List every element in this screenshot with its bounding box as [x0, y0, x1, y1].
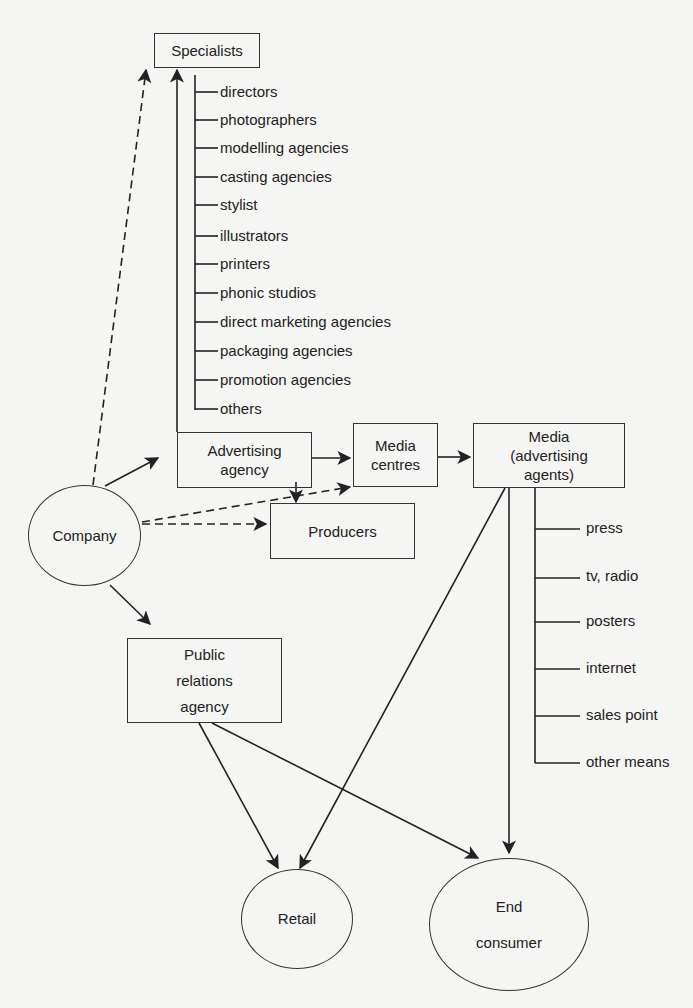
- node-advertising-agency: Advertising agency: [177, 432, 312, 488]
- specialist-item: casting agencies: [220, 168, 332, 186]
- edge-company-pr: [110, 585, 150, 624]
- node-producers: Producers: [270, 503, 415, 559]
- specialist-item: photographers: [220, 111, 317, 129]
- specialist-item: direct marketing agencies: [220, 313, 391, 331]
- specialist-item: illustrators: [220, 227, 288, 245]
- specialist-item: stylist: [220, 196, 258, 214]
- specialist-item: modelling agencies: [220, 139, 348, 157]
- specialist-item: phonic studios: [220, 284, 316, 302]
- specialist-item: printers: [220, 255, 270, 273]
- media-item: press: [586, 519, 623, 537]
- edge-pr-endconsumer: [212, 723, 478, 858]
- node-end-consumer: End consumer: [429, 858, 589, 991]
- media-item: internet: [586, 659, 636, 677]
- specialist-item: others: [220, 400, 262, 418]
- node-specialists: Specialists: [154, 33, 260, 68]
- specialist-item: packaging agencies: [220, 342, 353, 360]
- specialist-item: promotion agencies: [220, 371, 351, 389]
- node-public-relations: Public relations agency: [127, 638, 282, 723]
- edge-pr-retail: [199, 723, 278, 868]
- media-item: other means: [586, 753, 669, 771]
- node-media-centres: Media centres: [353, 423, 438, 487]
- media-item: sales point: [586, 706, 658, 724]
- specialist-item: directors: [220, 83, 278, 101]
- media-item: tv, radio: [586, 567, 638, 585]
- node-company: Company: [28, 485, 141, 586]
- edge-company-agency: [105, 458, 158, 486]
- edge-company-specialists: [93, 70, 146, 485]
- node-media-agents: Media (advertising agents): [473, 423, 625, 488]
- node-retail: Retail: [241, 869, 353, 969]
- media-item: posters: [586, 612, 635, 630]
